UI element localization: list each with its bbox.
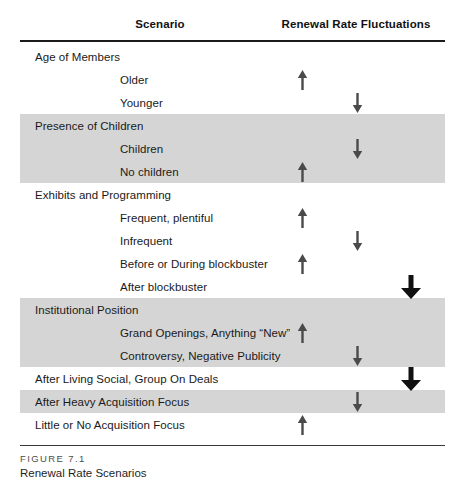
row-label: Older [120,74,148,86]
table-row: Grand Openings, Anything “New” [0,321,463,344]
column-header-scenario: Scenario [20,18,300,30]
scenario-rows: Age of MembersOlderYoungerPresence of Ch… [0,45,463,436]
figure-caption: FIGURE 7.1 Renewal Rate Scenarios [20,452,440,480]
row-label: Institutional Position [35,304,138,316]
figure-renewal-rate-scenarios: Scenario Renewal Rate Fluctuations Age o… [0,0,463,482]
row-label: Grand Openings, Anything “New” [120,327,290,339]
table-row: Presence of Children [0,114,463,137]
table-rule-bottom [20,445,445,446]
arrow-up-icon [296,208,309,228]
row-label: Little or No Acquisition Focus [35,419,185,431]
arrow-down-icon [401,275,421,299]
arrow-up-icon [296,254,309,274]
row-label: Frequent, plentiful [120,212,213,224]
row-label: Exhibits and Programming [35,189,171,201]
arrow-down-icon [351,231,364,251]
row-label: Controversy, Negative Publicity [120,350,280,362]
table-row: After Living Social, Group On Deals [0,367,463,390]
table-row: Older [0,68,463,91]
table-row: Younger [0,91,463,114]
table-row: No children [0,160,463,183]
table-row: Controversy, Negative Publicity [0,344,463,367]
row-label: Presence of Children [35,120,143,132]
column-header-renewal-rate-fluctuations: Renewal Rate Fluctuations [266,18,446,30]
arrow-up-icon [296,415,309,435]
table-row: Little or No Acquisition Focus [0,413,463,436]
table-row: Infrequent [0,229,463,252]
row-label: After blockbuster [120,281,207,293]
figure-title: Renewal Rate Scenarios [20,466,440,480]
table-row: Exhibits and Programming [0,183,463,206]
header-rule-top [20,40,445,42]
row-label: Age of Members [35,51,120,63]
arrow-up-icon [296,162,309,182]
row-label: After Living Social, Group On Deals [35,373,218,385]
table-row: Age of Members [0,45,463,68]
row-label: Younger [120,97,163,109]
table-row: Institutional Position [0,298,463,321]
table-row: Before or During blockbuster [0,252,463,275]
table-row: Frequent, plentiful [0,206,463,229]
arrow-down-icon [401,367,421,391]
table-row: Children [0,137,463,160]
arrow-down-icon [351,139,364,159]
row-label: No children [120,166,179,178]
table-header: Scenario Renewal Rate Fluctuations [20,18,445,40]
arrow-up-icon [296,70,309,90]
row-label: Children [120,143,163,155]
arrow-up-icon [296,323,309,343]
arrow-down-icon [351,346,364,366]
table-row: After Heavy Acquisition Focus [0,390,463,413]
arrow-down-icon [351,392,364,412]
row-label: Infrequent [120,235,172,247]
row-label: After Heavy Acquisition Focus [35,396,189,408]
figure-label: FIGURE 7.1 [20,452,440,465]
arrow-down-icon [351,93,364,113]
row-label: Before or During blockbuster [120,258,268,270]
table-row: After blockbuster [0,275,463,298]
